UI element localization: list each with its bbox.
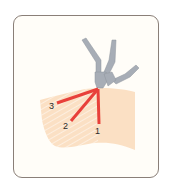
- label-path-3: 3: [49, 101, 54, 111]
- injection-diagram: 1 2 3: [0, 0, 171, 182]
- label-path-1: 1: [95, 126, 100, 136]
- needle-path-1: [98, 89, 99, 124]
- instrument-icon: [82, 38, 139, 88]
- label-path-2: 2: [63, 121, 68, 131]
- skin-tissue: [40, 88, 135, 150]
